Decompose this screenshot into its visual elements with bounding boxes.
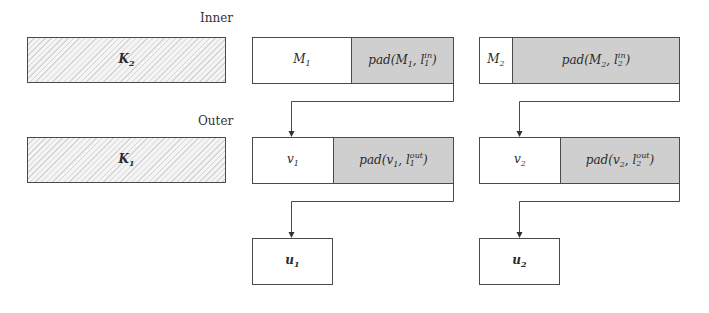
arrow-outer2-to-output2 xyxy=(520,184,680,233)
arrowhead-icon xyxy=(289,232,295,238)
arrowhead-icon xyxy=(517,232,523,238)
connector-wires xyxy=(0,0,709,313)
arrow-inner2-to-outer2 xyxy=(520,84,680,132)
arrowhead-icon xyxy=(517,131,523,137)
arrowhead-icon xyxy=(289,131,295,137)
arrow-outer1-to-output1 xyxy=(292,184,454,233)
arrow-inner1-to-outer1 xyxy=(292,84,454,132)
